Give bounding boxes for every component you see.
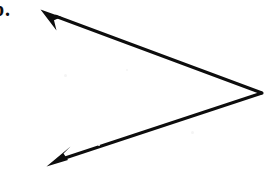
- angle-diagram-svg: [0, 0, 270, 171]
- scan-speck: [98, 144, 100, 146]
- vertex-point: [260, 91, 263, 94]
- scan-speck: [191, 131, 194, 134]
- upper-arrowhead: [41, 10, 62, 31]
- scan-speck: [64, 74, 67, 77]
- lower-ray-group: [47, 93, 263, 167]
- upper-ray-line: [55, 16, 262, 93]
- scan-speck: [126, 69, 128, 71]
- upper-ray-group: [41, 10, 263, 94]
- angle-figure: b.: [0, 0, 270, 171]
- lower-ray-line: [62, 93, 262, 159]
